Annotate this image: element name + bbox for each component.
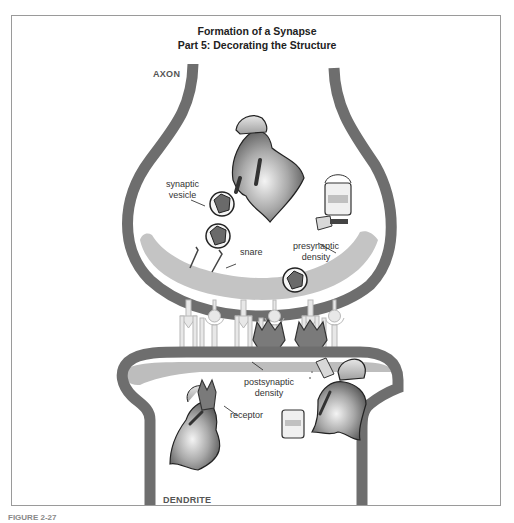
receptor-label: receptor <box>230 410 263 421</box>
synaptic-vesicle-label-line1: synaptic <box>166 179 199 190</box>
presynaptic-density-label-line1: presynaptic <box>293 241 339 252</box>
paint-can-icon <box>282 410 304 438</box>
dendrite-label: DENDRITE <box>163 495 211 505</box>
snare-label: snare <box>240 247 263 258</box>
synaptic-vesicle-label-line2: vesicle <box>166 190 199 201</box>
arrow-icon <box>235 300 252 348</box>
vesicle-icon <box>210 192 234 216</box>
paint-can-icon <box>325 175 351 215</box>
paintbrush-icon <box>316 216 348 230</box>
postsynaptic-density-label-line2: density <box>244 388 294 399</box>
receptor-icon <box>198 380 216 410</box>
figure-caption: FIGURE 2-27 <box>8 513 56 522</box>
presynaptic-density-label: presynaptic density <box>293 241 339 263</box>
vesicle-icon <box>206 224 230 248</box>
presynaptic-density <box>140 231 378 300</box>
vesicle-icon <box>283 268 307 292</box>
postsynaptic-density-label: postsynaptic density <box>244 377 294 399</box>
presynaptic-density-label-line2: density <box>293 252 339 263</box>
synapse-diagram <box>0 0 514 523</box>
axon-label: AXON <box>153 69 180 79</box>
worker-figure-icon <box>232 116 304 222</box>
postsynaptic-density-label-line1: postsynaptic <box>244 377 294 388</box>
synaptic-vesicle-label: synaptic vesicle <box>166 179 199 201</box>
